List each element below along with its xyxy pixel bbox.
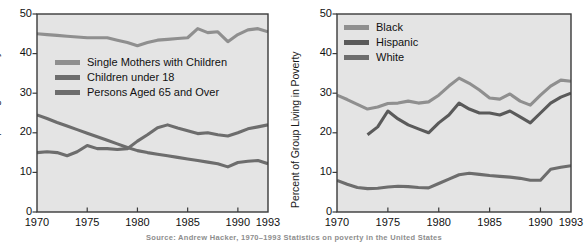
x-tick-label: 1990: [221, 216, 255, 228]
y-tick-label: 30: [3, 86, 32, 98]
x-tick-label: 1970: [320, 216, 354, 228]
legend-item-label: White: [376, 51, 404, 63]
legend-color-swatch: [344, 25, 369, 30]
y-tick-label: 20: [303, 125, 332, 137]
x-tick-label: 1990: [523, 216, 557, 228]
figure-caption: Source: Andrew Hacker, 1970–1993 Statist…: [0, 233, 588, 242]
y-tick-label: 50: [303, 7, 332, 19]
legend-item[interactable]: Children under 18: [55, 70, 227, 84]
x-tick-label: 1985: [473, 216, 507, 228]
legend-item-label: Black: [376, 21, 403, 33]
chart-panel-left: Percent of Group Living in Poverty Singl…: [0, 0, 294, 242]
poverty-figure: Percent of Group Living in Poverty Singl…: [0, 0, 588, 242]
y-tick-label: 30: [303, 86, 332, 98]
x-tick-label: 1975: [371, 216, 405, 228]
legend-color-swatch: [55, 60, 80, 65]
y-tick-label: 0: [3, 205, 32, 217]
x-tick-label: 1980: [422, 216, 456, 228]
legend-color-swatch: [55, 75, 80, 80]
y-tick-label: 10: [3, 165, 32, 177]
y-axis-title-right: Percent of Group Living in Poverty: [289, 51, 301, 208]
line-chart-left: [0, 0, 294, 242]
y-tick-label: 50: [3, 7, 32, 19]
legend-item[interactable]: Hispanic: [344, 35, 418, 49]
x-tick-label: 1993: [554, 216, 588, 228]
x-tick-label: 1980: [120, 216, 154, 228]
legend-item[interactable]: Black: [344, 20, 418, 34]
legend-item-label: Single Mothers with Children: [87, 56, 227, 68]
y-axis-title-left: Percent of Group Living in Poverty: [0, 51, 1, 208]
y-tick-label: 20: [3, 125, 32, 137]
y-tick-label: 10: [303, 165, 332, 177]
chart-panel-right: Percent of Group Living in Poverty Black…: [294, 0, 588, 242]
chart-legend-left: Single Mothers with ChildrenChildren und…: [55, 55, 227, 100]
legend-item[interactable]: Persons Aged 65 and Over: [55, 85, 227, 99]
legend-color-swatch: [55, 90, 80, 95]
legend-color-swatch: [344, 40, 369, 45]
x-tick-label: 1985: [171, 216, 205, 228]
legend-item-label: Children under 18: [87, 71, 174, 83]
y-tick-label: 0: [303, 205, 332, 217]
legend-color-swatch: [344, 55, 369, 60]
legend-item[interactable]: Single Mothers with Children: [55, 55, 227, 69]
y-tick-label: 40: [3, 46, 32, 58]
y-tick-label: 40: [303, 46, 332, 58]
legend-item-label: Persons Aged 65 and Over: [87, 86, 219, 98]
chart-legend-right: BlackHispanicWhite: [344, 20, 418, 65]
x-tick-label: 1970: [20, 216, 54, 228]
line-chart-right: [294, 0, 588, 242]
legend-item[interactable]: White: [344, 50, 418, 64]
x-tick-label: 1993: [251, 216, 285, 228]
legend-item-label: Hispanic: [376, 36, 418, 48]
x-tick-label: 1975: [70, 216, 104, 228]
